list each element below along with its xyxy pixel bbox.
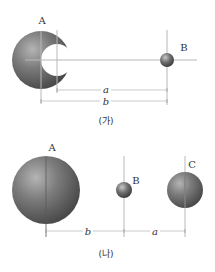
dim-b-label: b	[103, 96, 109, 107]
figure-na: b a A B C (나)	[12, 142, 203, 259]
dim-b-label: b	[85, 226, 91, 237]
sphere-b	[116, 182, 132, 198]
dim-a-label: a	[152, 226, 158, 237]
label-b: B	[132, 175, 139, 186]
sphere-b	[160, 53, 174, 67]
label-a: A	[47, 142, 56, 153]
dim-a-label: a	[103, 84, 109, 95]
caption-ga: (가)	[98, 116, 113, 126]
label-b: B	[180, 42, 187, 53]
caption-na: (나)	[98, 249, 113, 259]
figure-ga: a b A B (가)	[12, 15, 197, 126]
label-a: A	[37, 15, 46, 26]
label-c: C	[188, 159, 196, 170]
diagram-canvas: a b A B (가) b a A B C (나)	[0, 0, 215, 272]
